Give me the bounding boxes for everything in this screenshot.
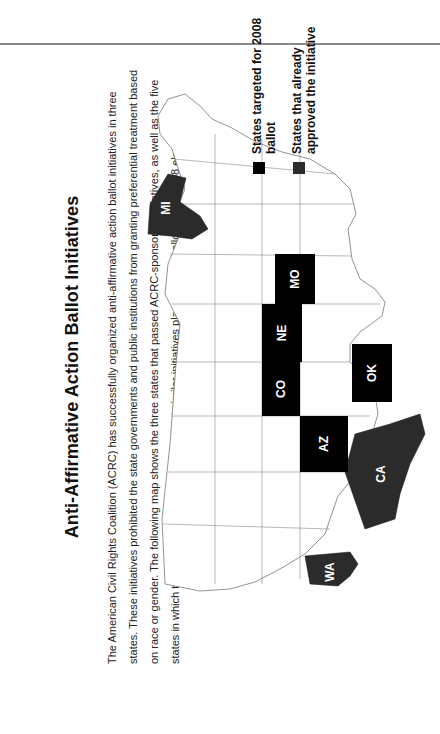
rotated-page: Anti-Affirmative Action Ballot Initiativ…: [0, 0, 440, 734]
approved-swatch-icon: [293, 162, 305, 174]
legend-targeted-label: States targeted for 2008 ballot: [250, 4, 278, 154]
us-map: WA CA AZ CO NE OK MO MI: [0, 0, 440, 734]
legend-approved: States that already approved the initiat…: [290, 4, 318, 174]
label-co: CO: [274, 380, 288, 398]
targeted-swatch-icon: [253, 162, 265, 174]
label-mi: MI: [159, 201, 173, 214]
label-wa: WA: [323, 562, 337, 582]
legend-approved-label: States that already approved the initiat…: [290, 4, 318, 154]
label-mo: MO: [288, 269, 302, 288]
label-ne: NE: [275, 325, 289, 342]
label-ok: OK: [365, 364, 379, 382]
label-ca: CA: [374, 465, 388, 483]
map-legend: States targeted for 2008 ballot States t…: [250, 4, 330, 174]
legend-targeted: States targeted for 2008 ballot: [250, 4, 278, 174]
label-az: AZ: [317, 436, 331, 452]
